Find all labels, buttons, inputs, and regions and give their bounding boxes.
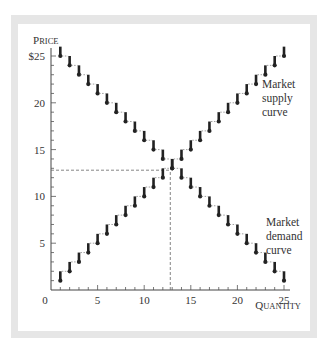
- supply-demand-chart: 5101520$25 0510152025 PRICE QUANTITY Mar…: [0, 0, 324, 341]
- y-tick-label: 5: [40, 237, 46, 249]
- supply-curve-label: Market: [262, 78, 296, 90]
- demand-curve-label: curve: [266, 244, 292, 256]
- y-tick-label: $25: [29, 50, 46, 62]
- x-tick-label: 0: [42, 294, 48, 306]
- supply-curve-label: supply: [262, 92, 293, 105]
- x-tick-label: 20: [232, 294, 244, 306]
- curve-labels: MarketsupplycurveMarketdemandcurve: [262, 78, 303, 256]
- x-axis-ticks: 0510152025: [42, 285, 290, 306]
- y-tick-label: 20: [34, 97, 46, 109]
- y-axis-ticks: 5101520$25: [29, 50, 57, 281]
- axes: 5101520$25 0510152025: [29, 48, 291, 306]
- y-tick-label: 10: [34, 190, 46, 202]
- x-axis-title: QUANTITY: [255, 299, 301, 311]
- supply-curve-label: curve: [262, 106, 288, 118]
- x-tick-label: 5: [95, 294, 101, 306]
- y-tick-label: 15: [34, 144, 46, 156]
- x-tick-label: 15: [185, 294, 197, 306]
- y-axis-title: PRICE: [33, 34, 59, 46]
- curves: [58, 47, 286, 283]
- x-tick-label: 10: [139, 294, 151, 306]
- demand-curve-label: demand: [266, 230, 303, 242]
- demand-curve: [58, 47, 286, 283]
- demand-curve-label: Market: [266, 216, 300, 228]
